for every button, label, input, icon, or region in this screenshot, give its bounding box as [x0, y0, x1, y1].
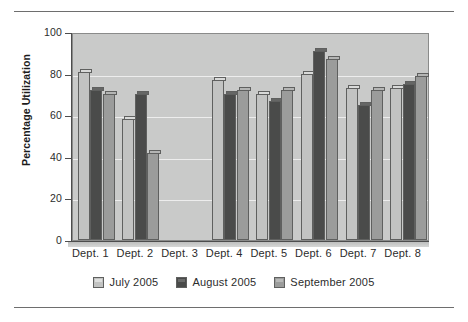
x-axis-label: Dept. 1	[68, 247, 113, 259]
plot-area	[72, 33, 429, 241]
bar	[390, 85, 402, 240]
bar-face	[403, 84, 415, 240]
legend-swatch-icon	[176, 277, 187, 288]
legend-swatch-icon	[274, 277, 285, 288]
legend-item: September 2005	[274, 276, 374, 288]
bar	[135, 91, 147, 240]
y-axis-tick-label: 0	[36, 234, 62, 246]
bar-face	[122, 119, 134, 240]
y-axis-tick	[65, 199, 71, 200]
bar	[301, 71, 313, 240]
bar-group	[78, 34, 115, 240]
legend-item: August 2005	[176, 276, 256, 288]
bar-face	[301, 74, 313, 240]
x-axis-label: Dept. 8	[380, 247, 425, 259]
x-axis-label: Dept. 4	[202, 247, 247, 259]
y-axis-tick-label: 100	[36, 26, 62, 38]
bottom-divider-rule	[14, 307, 454, 308]
bar	[403, 81, 415, 240]
bar	[224, 91, 236, 240]
y-axis-line	[71, 33, 72, 242]
bar-face	[224, 94, 236, 240]
bar-face	[269, 101, 281, 240]
bar-face	[212, 80, 224, 240]
y-axis-tick-label: 80	[36, 68, 62, 80]
bar-group	[301, 34, 338, 240]
bar-face	[415, 76, 427, 240]
bar-face	[390, 88, 402, 240]
x-axis-line	[71, 241, 429, 242]
legend-item: July 2005	[93, 276, 158, 288]
bar-group	[346, 34, 383, 240]
y-axis-tick-label: 60	[36, 109, 62, 121]
bar-group	[390, 34, 427, 240]
bar	[237, 87, 249, 240]
bar-group	[167, 34, 204, 240]
x-axis-label: Dept. 2	[113, 247, 158, 259]
legend-label: July 2005	[109, 276, 158, 288]
y-axis-tick-label: 40	[36, 151, 62, 163]
y-axis-tick	[65, 241, 71, 242]
x-axis-label: Dept. 6	[291, 247, 336, 259]
x-axis-label: Dept. 3	[157, 247, 202, 259]
bar-face	[90, 90, 102, 240]
bar-face	[371, 90, 383, 240]
y-axis-title: Percentage Utilization	[20, 40, 32, 180]
bar	[415, 73, 427, 240]
bar-face	[346, 88, 358, 240]
bar-face	[78, 72, 90, 240]
bar-face	[147, 153, 159, 240]
bar-group	[256, 34, 293, 240]
bar	[269, 98, 281, 240]
y-axis-tick	[65, 158, 71, 159]
legend-label: August 2005	[192, 276, 256, 288]
y-axis-tick	[65, 116, 71, 117]
bar	[103, 91, 115, 240]
legend-swatch-icon	[93, 277, 104, 288]
bar	[122, 116, 134, 240]
bar-face	[103, 94, 115, 240]
bar-face	[256, 94, 268, 240]
bar	[326, 56, 338, 240]
bar	[147, 150, 159, 240]
y-axis-tick	[65, 75, 71, 76]
top-divider-rule	[14, 11, 454, 12]
x-axis-label: Dept. 5	[247, 247, 292, 259]
y-axis-tick-label: 20	[36, 192, 62, 204]
bar-face	[237, 90, 249, 240]
bar-group	[122, 34, 159, 240]
bar-chart-figure: Percentage Utilization 020406080100 Dept…	[0, 0, 468, 322]
bar	[346, 85, 358, 240]
bar-face	[326, 59, 338, 240]
bar	[90, 87, 102, 240]
x-axis-label: Dept. 7	[336, 247, 381, 259]
bar-face	[358, 105, 370, 240]
bar-group	[212, 34, 249, 240]
bar-face	[135, 94, 147, 240]
chart-legend: July 2005August 2005September 2005	[0, 276, 468, 288]
bar	[358, 102, 370, 240]
y-axis-tick	[65, 33, 71, 34]
bar	[256, 91, 268, 240]
bar	[371, 87, 383, 240]
bar	[212, 77, 224, 240]
bar	[78, 69, 90, 240]
legend-label: September 2005	[290, 276, 374, 288]
bar	[281, 87, 293, 240]
bar-face	[313, 51, 325, 240]
bar	[313, 48, 325, 240]
bar-face	[281, 90, 293, 240]
